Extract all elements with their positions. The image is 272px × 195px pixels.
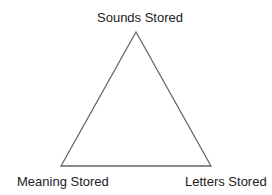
triangle-diagram: Sounds Stored Meaning Stored Letters Sto… xyxy=(0,0,272,195)
vertex-label-letters: Letters Stored xyxy=(185,174,267,189)
vertex-label-sounds: Sounds Stored xyxy=(97,10,183,25)
triangle-shape xyxy=(0,0,272,195)
vertex-label-meaning: Meaning Stored xyxy=(17,174,109,189)
